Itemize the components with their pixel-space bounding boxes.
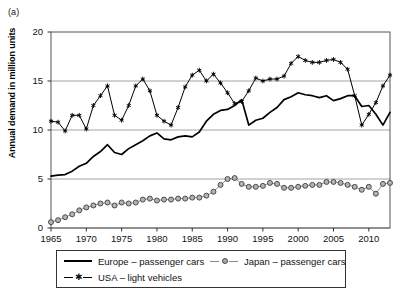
legend-entry-japan: Japan – passenger cars [209,254,345,268]
plot-canvas [0,0,412,245]
series-1 [49,176,393,225]
solid-line-icon [63,255,93,267]
chart-legend: Europe – passenger cars Japan – passenge… [56,250,346,288]
series-0 [51,93,390,176]
chart-area: Annual demand in million units 05101520 … [0,0,412,245]
series-2 [49,54,392,133]
legend-entry-usa: ✱ USA – light vehicles [63,270,182,284]
asterisk-marker-icon: ✱ [63,271,93,283]
legend-label-usa: USA – light vehicles [98,272,182,283]
legend-entry-europe: Europe – passenger cars [63,254,204,268]
legend-label-japan: Japan – passenger cars [244,256,345,267]
series-layer [49,54,393,225]
circle-marker-icon [209,255,239,267]
legend-label-europe: Europe – passenger cars [98,256,204,267]
